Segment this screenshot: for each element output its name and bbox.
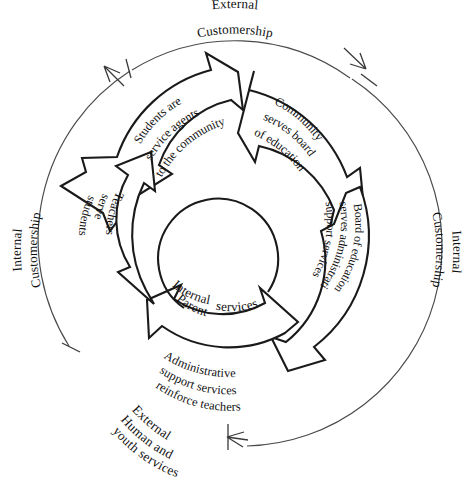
ring-label-left-customership: Customership [25, 210, 44, 289]
ring-tick-top-left [126, 59, 131, 78]
ring-tick-top-right [361, 74, 377, 86]
center-label-services: services [215, 295, 259, 314]
ring-label-left-internal: Internal [9, 228, 25, 273]
ring-arrowhead-bottom-right [227, 432, 248, 447]
ring-arrowhead-top-right [344, 48, 366, 69]
ring-label-right-internal: Internal [449, 230, 465, 275]
outer-ring-arc-top [132, 41, 350, 78]
ring-label-top-customership: Customership [196, 22, 275, 41]
customership-cycle-diagram: External Customership Internal Customers… [0, 0, 470, 500]
diagram-canvas: External Customership Internal Customers… [0, 0, 470, 500]
ring-label-right-customership: Customership [429, 211, 448, 290]
ring-label-top-external: External [211, 0, 259, 12]
ring-tick-bottom-left [62, 343, 80, 352]
